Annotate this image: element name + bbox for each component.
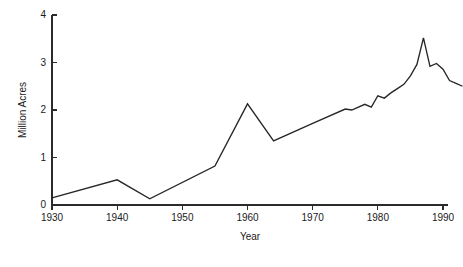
y-tick-label: 0 (40, 199, 46, 210)
x-tick-label: 1940 (106, 212, 129, 223)
y-axis-title: Million Acres (17, 82, 28, 138)
x-tick-label: 1980 (367, 212, 390, 223)
x-tick-label: 1990 (432, 212, 455, 223)
data-series-line (52, 38, 463, 199)
x-axis: 1930194019501960197019801990 (41, 205, 455, 223)
x-tick-label: 1950 (171, 212, 194, 223)
y-axis-ticks: 01234 (40, 9, 57, 210)
y-tick-label: 2 (40, 104, 46, 115)
y-tick-label: 1 (40, 152, 46, 163)
x-axis-ticks: 1930194019501960197019801990 (41, 205, 455, 223)
line-chart: 01234 1930194019501960197019801990 Year … (0, 0, 463, 267)
chart-canvas: 01234 1930194019501960197019801990 Year … (0, 0, 463, 267)
x-axis-title: Year (240, 231, 261, 242)
plot-area (52, 38, 463, 199)
x-tick-label: 1930 (41, 212, 64, 223)
y-axis: 01234 (40, 9, 57, 210)
x-tick-label: 1960 (236, 212, 259, 223)
y-tick-label: 4 (40, 9, 46, 20)
y-tick-label: 3 (40, 57, 46, 68)
x-tick-label: 1970 (302, 212, 325, 223)
